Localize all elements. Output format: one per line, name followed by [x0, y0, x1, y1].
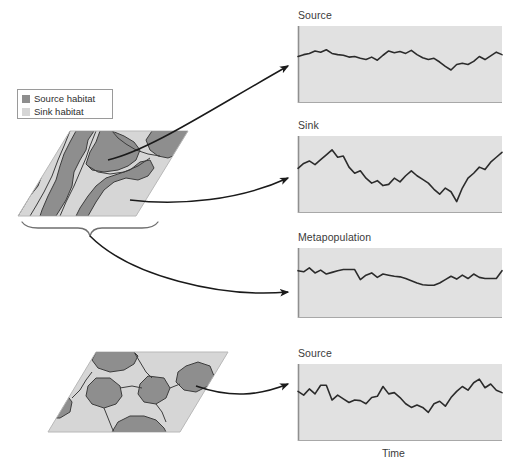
legend-label-sink-habitat: Sink habitat	[34, 107, 84, 117]
sink-habitat-swatch-icon	[22, 108, 30, 116]
x-axis-label: Time	[382, 447, 405, 459]
legend-label-source-habitat: Source habitat	[34, 94, 95, 104]
habitat-legend: Source habitat Sink habitat	[17, 89, 113, 119]
panel-background	[298, 248, 502, 318]
chart-title-metapopulation: Metapopulation	[298, 231, 371, 243]
landscape-top-brace	[22, 222, 158, 236]
chart-panel-source-bottom	[298, 364, 502, 441]
panel-background	[298, 26, 502, 103]
legend-item-source-habitat: Source habitat	[22, 93, 108, 105]
legend-item-sink-habitat: Sink habitat	[22, 106, 108, 118]
figure-canvas	[0, 0, 513, 466]
landscape-bottom	[48, 352, 228, 432]
chart-title-source-top: Source	[298, 9, 332, 21]
chart-panel-source-top	[298, 26, 502, 103]
landscape-top	[14, 131, 188, 216]
figure-root: Source Sink Metapopulation Source Time S…	[0, 0, 513, 466]
arrow-metapopulation	[90, 236, 288, 293]
chart-title-sink: Sink	[298, 119, 319, 131]
arrow-source-bottom	[196, 384, 288, 394]
source-habitat-swatch-icon	[22, 95, 30, 103]
connector-arrows	[90, 66, 288, 394]
chart-panel-sink	[298, 136, 502, 213]
chart-panel-metapopulation	[298, 248, 502, 318]
chart-title-source-bottom: Source	[298, 347, 332, 359]
panel-background	[298, 364, 502, 441]
